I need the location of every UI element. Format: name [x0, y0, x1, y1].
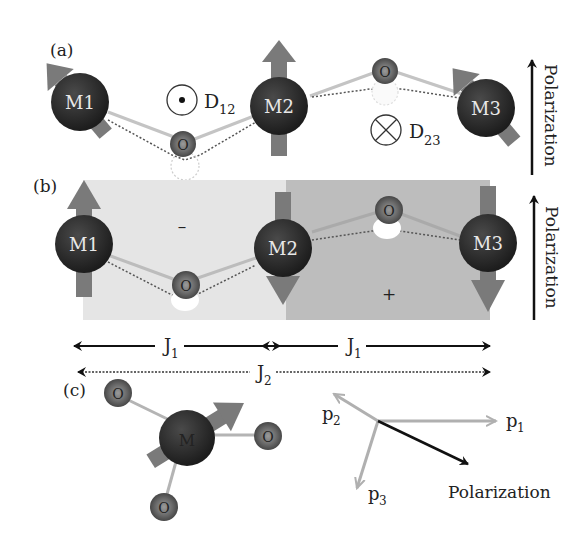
p3-arrow [357, 421, 378, 488]
atom-m3-a-label: M3 [471, 98, 501, 119]
exchange-j2: J 2 [78, 362, 490, 388]
oxygen-2-b-label: O [383, 203, 394, 219]
polarization-label-a: Polarization [541, 64, 561, 167]
oxygen-2-a-label: O [379, 64, 390, 80]
region-sign-positive: + [382, 284, 396, 304]
dm-vector-d23: D 23 [371, 115, 441, 148]
j1-right-label: J [345, 335, 354, 356]
exchange-j1-left: J 1 [74, 335, 280, 361]
j1-left-label: J [162, 335, 171, 356]
polarization-label-c: Polarization [448, 482, 551, 502]
atom-m1-a-label: M1 [65, 92, 95, 113]
atom-m2-a-label: M2 [264, 96, 294, 117]
p3-subscript: 3 [379, 494, 387, 508]
p-vectors [334, 394, 496, 488]
atom-m2-b-label: M2 [268, 238, 298, 259]
p3-label: p [368, 483, 380, 504]
d12-subscript: 12 [219, 102, 236, 117]
d23-label: D [409, 120, 424, 142]
j1-left-subscript: 1 [171, 347, 179, 361]
panel-a-label: (a) [50, 40, 73, 60]
oxygen-1-a-label: O [177, 137, 188, 153]
oxygen-c2-label: O [262, 429, 273, 445]
j2-label: J [255, 362, 264, 383]
polarization-axis-a: Polarization [532, 60, 561, 175]
atom-m-c-label: M [179, 431, 195, 450]
panel-b-label: (b) [33, 176, 57, 196]
region-sign-negative: – [178, 216, 187, 236]
panel-c-label: (c) [63, 380, 86, 400]
panel-a: (a) M1 O D 12 [34, 40, 561, 180]
p2-subscript: 2 [333, 414, 341, 428]
atom-m3-b-label: M3 [473, 233, 503, 254]
panel-b: (b) – + M1 O [33, 176, 562, 388]
oxygen-c1-label: O [112, 386, 123, 402]
atom-m1-b-label: M1 [69, 234, 99, 255]
net-polarization-arrow [378, 421, 468, 464]
j2-subscript: 2 [264, 374, 272, 388]
panel-c: (c) M O O O p 1 p 2 p 3 Polarizat [63, 379, 551, 521]
multiferroic-diagram: (a) M1 O D 12 [0, 0, 584, 545]
exchange-j1-right: J 1 [262, 335, 490, 361]
dm-vector-d12: D 12 [167, 85, 236, 117]
d23-subscript: 23 [424, 133, 441, 148]
j1-right-subscript: 1 [354, 347, 362, 361]
p1-subscript: 1 [517, 421, 525, 435]
polarization-label-b: Polarization [542, 206, 562, 309]
oxygen-1-b-label: O [180, 278, 191, 294]
polarization-axis-b: Polarization [534, 196, 562, 320]
oxygen-c3-label: O [158, 500, 169, 516]
p1-label: p [506, 410, 518, 431]
d12-label: D [204, 90, 219, 112]
p2-label: p [322, 403, 334, 424]
